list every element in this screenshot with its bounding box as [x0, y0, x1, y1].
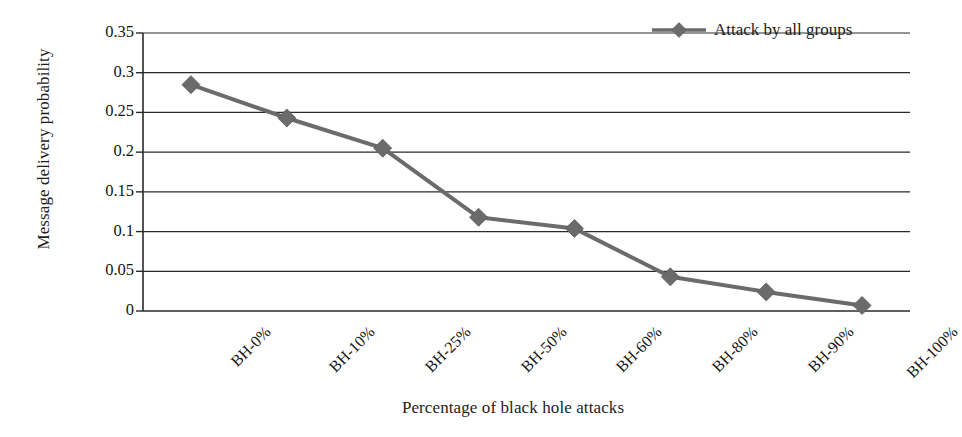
x-tick-label: BH-25% [421, 323, 474, 376]
x-tick-label: BH-10% [325, 323, 378, 376]
legend-marker-icon [652, 20, 706, 40]
x-tick-label: BH-60% [613, 323, 666, 376]
x-tick-label: BH-100% [903, 323, 962, 382]
x-tick-label: BH-80% [709, 323, 762, 376]
legend-label: Attack by all groups [714, 20, 852, 40]
x-axis-title: Percentage of black hole attacks [143, 398, 883, 418]
x-tick-label: BH-0% [227, 323, 274, 370]
x-tick-label: BH-50% [517, 323, 570, 376]
x-tick-label: BH-90% [805, 323, 858, 376]
chart-legend: Attack by all groups [652, 20, 852, 40]
